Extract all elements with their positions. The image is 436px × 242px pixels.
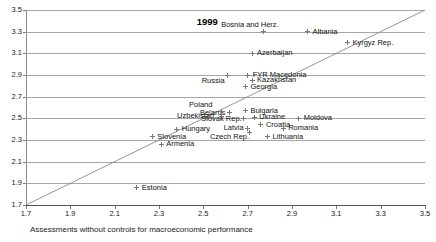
y-tick-mark xyxy=(23,140,26,141)
x-tick-label: 3.3 xyxy=(366,210,396,218)
data-point-label: Moldova xyxy=(304,114,332,122)
data-point-marker[interactable] xyxy=(150,134,155,139)
data-point-label: Bosnia and Herz. xyxy=(221,21,279,29)
data-point-label: Romania xyxy=(288,124,318,132)
year-annotation: 1999 xyxy=(197,17,218,27)
y-tick-label: 2.7 xyxy=(0,93,22,101)
x-tick-mark xyxy=(159,206,160,209)
data-point-marker[interactable] xyxy=(258,122,263,127)
data-point-label: Estonia xyxy=(142,184,167,192)
y-tick-label: 3.3 xyxy=(0,28,22,36)
x-tick-label: 2.7 xyxy=(233,210,263,218)
scatter-chart: Bosnia and Herz.AlbaniaKyrgyz Rep.Azerba… xyxy=(0,0,436,242)
data-point-label: Kyrgyz Rep. xyxy=(352,39,393,47)
data-point-marker[interactable] xyxy=(252,115,257,120)
data-point-marker[interactable] xyxy=(281,126,286,131)
y-tick-mark xyxy=(23,118,26,119)
x-tick-mark xyxy=(26,206,27,209)
data-point-marker[interactable] xyxy=(265,134,270,139)
data-point-label: Albania xyxy=(313,28,338,36)
data-point-marker[interactable] xyxy=(250,51,255,56)
data-point-label: Georgia xyxy=(250,83,277,91)
data-point-label: Croatia xyxy=(266,121,290,129)
y-tick-mark xyxy=(23,75,26,76)
x-axis-title: Assessments without controls for macroec… xyxy=(30,225,253,234)
x-tick-mark xyxy=(70,206,71,209)
y-tick-mark xyxy=(23,183,26,184)
data-point-label: Armenia xyxy=(166,140,194,148)
data-point-marker[interactable] xyxy=(345,40,350,45)
plot-area: Bosnia and Herz.AlbaniaKyrgyz Rep.Azerba… xyxy=(26,10,425,205)
y-tick-mark xyxy=(23,162,26,163)
x-tick-mark xyxy=(203,206,204,209)
y-tick-label: 3.5 xyxy=(0,6,22,14)
data-point-marker[interactable] xyxy=(174,127,179,132)
x-tick-mark xyxy=(292,206,293,209)
data-point-marker[interactable] xyxy=(245,73,250,78)
y-tick-mark xyxy=(23,53,26,54)
data-point-label: Lithuania xyxy=(273,133,303,141)
data-point-marker[interactable] xyxy=(243,108,248,113)
x-tick-mark xyxy=(381,206,382,209)
data-point-marker[interactable] xyxy=(243,84,248,89)
x-tick-label: 2.1 xyxy=(100,210,130,218)
data-point-label: Czech Rep. xyxy=(210,133,249,141)
data-point-marker[interactable] xyxy=(225,73,230,78)
data-point-label: Russia xyxy=(202,77,225,85)
x-tick-label: 2.5 xyxy=(188,210,218,218)
x-tick-mark xyxy=(248,206,249,209)
y-tick-label: 1.7 xyxy=(0,201,22,209)
x-tick-label: 1.9 xyxy=(55,210,85,218)
x-tick-mark xyxy=(425,206,426,209)
data-point-label: Latvia xyxy=(224,124,244,132)
x-tick-mark xyxy=(336,206,337,209)
x-tick-label: 1.7 xyxy=(11,210,41,218)
x-tick-label: 2.9 xyxy=(277,210,307,218)
y-tick-label: 3.1 xyxy=(0,49,22,57)
x-tick-label: 3.5 xyxy=(410,210,436,218)
data-point-marker[interactable] xyxy=(134,185,139,190)
x-tick-label: 2.3 xyxy=(144,210,174,218)
y-tick-label: 2.9 xyxy=(0,71,22,79)
y-tick-label: 1.9 xyxy=(0,179,22,187)
y-tick-mark xyxy=(23,32,26,33)
x-axis-line xyxy=(26,205,426,206)
data-point-marker[interactable] xyxy=(261,29,266,34)
y-tick-label: 2.5 xyxy=(0,114,22,122)
data-point-marker[interactable] xyxy=(159,142,164,147)
data-point-marker[interactable] xyxy=(296,116,301,121)
x-tick-mark xyxy=(115,206,116,209)
y-tick-mark xyxy=(23,97,26,98)
y-tick-label: 2.1 xyxy=(0,158,22,166)
data-point-marker[interactable] xyxy=(305,29,310,34)
data-point-label: Azerbaijan xyxy=(257,49,292,57)
data-point-label: Poland xyxy=(189,101,212,109)
y-tick-label: 2.3 xyxy=(0,136,22,144)
y-tick-mark xyxy=(23,10,26,11)
x-tick-label: 3.1 xyxy=(321,210,351,218)
